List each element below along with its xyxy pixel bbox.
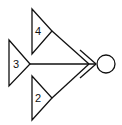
triangle-4: 4	[32, 9, 52, 54]
triangle-2-label: 2	[35, 92, 41, 104]
line-from-2	[52, 64, 89, 98]
diagram-canvas: 4 3 2	[0, 0, 122, 125]
triangle-2: 2	[32, 76, 52, 120]
terminal-circle	[97, 55, 115, 73]
triangle-4-label: 4	[35, 25, 41, 37]
line-from-4	[52, 31, 89, 64]
triangle-3-label: 3	[13, 58, 19, 70]
triangle-3: 3	[9, 40, 30, 86]
chevron-lower	[80, 64, 96, 78]
chevron-upper	[80, 50, 96, 64]
